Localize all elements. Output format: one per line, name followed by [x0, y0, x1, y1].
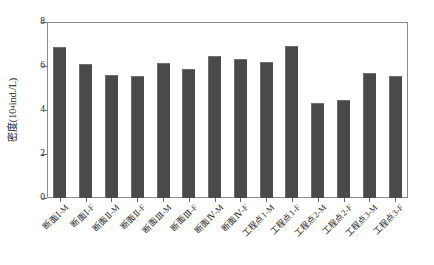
x-tick-mark	[369, 198, 370, 202]
bar	[363, 73, 376, 198]
bar	[208, 56, 221, 198]
x-tick-mark	[163, 198, 164, 202]
x-tick-mark	[240, 198, 241, 202]
plot-area	[47, 22, 408, 198]
bar	[311, 103, 324, 198]
y-tick-mark	[42, 198, 47, 199]
x-tick-mark	[395, 198, 396, 202]
bar-chart: 密度(104ind./L) 02468断面Ⅰ-M断面Ⅰ-F断面Ⅱ-M断面Ⅱ-F断…	[0, 0, 434, 265]
bar	[234, 59, 247, 198]
x-tick-mark	[86, 198, 87, 202]
y-tick-label: 6	[15, 61, 45, 71]
bar	[182, 69, 195, 198]
y-tick-mark	[42, 22, 47, 23]
bar	[389, 76, 402, 198]
x-tick-mark	[266, 198, 267, 202]
bar	[131, 76, 144, 198]
y-tick-label: 4	[15, 105, 45, 115]
x-tick-mark	[111, 198, 112, 202]
bar	[285, 46, 298, 198]
x-tick-mark	[344, 198, 345, 202]
y-tick-label: 8	[15, 17, 45, 27]
x-tick-mark	[60, 198, 61, 202]
bar	[105, 75, 118, 198]
y-tick-mark	[42, 154, 47, 155]
bar	[337, 100, 350, 198]
y-tick-label: 2	[15, 149, 45, 159]
bar	[157, 63, 170, 198]
y-axis-title-tail: ind./L)	[8, 78, 18, 106]
y-tick-label: 0	[15, 193, 45, 203]
y-tick-mark	[42, 66, 47, 67]
x-tick-mark	[292, 198, 293, 202]
x-tick-mark	[215, 198, 216, 202]
bar	[79, 64, 92, 198]
bar	[260, 62, 273, 198]
x-tick-mark	[318, 198, 319, 202]
x-tick-mark	[189, 198, 190, 202]
x-tick-mark	[137, 198, 138, 202]
bar	[53, 47, 66, 198]
y-tick-mark	[42, 110, 47, 111]
